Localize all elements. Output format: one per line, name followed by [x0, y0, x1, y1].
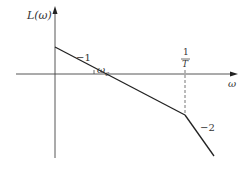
bode-plot-svg	[0, 0, 242, 169]
break-freq-numerator: 1	[183, 47, 189, 57]
break-freq-denominator: T	[182, 59, 188, 69]
crossover-label-base: ω	[97, 64, 105, 75]
x-axis-label: ω	[228, 78, 236, 89]
slope-2-label: −2	[200, 122, 215, 133]
y-axis-label: L(ω)	[27, 9, 52, 22]
bode-plot: L(ω) ω −1 ωc 1 T −2	[0, 0, 242, 169]
slope-minus1-segment	[55, 47, 185, 115]
crossover-label: ωc	[97, 64, 109, 78]
crossover-label-sub: c	[105, 70, 109, 78]
y-axis-arrow-icon	[53, 6, 58, 14]
slope-1-label: −1	[76, 52, 91, 63]
x-axis-arrow-icon	[230, 72, 238, 77]
